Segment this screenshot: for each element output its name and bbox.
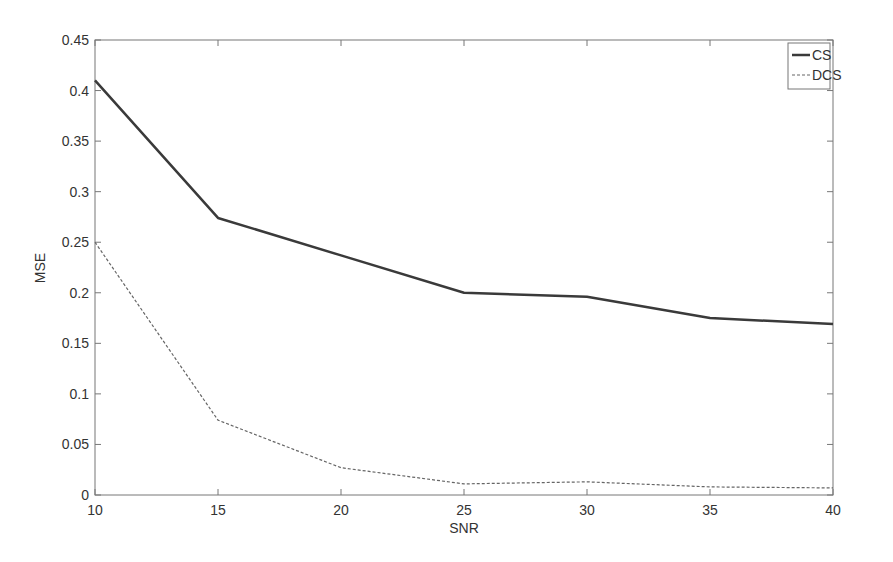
x-tick-label: 30 (579, 502, 595, 518)
series-line-dcs (95, 242, 833, 488)
y-tick-label: 0.4 (70, 83, 90, 99)
x-tick-label: 25 (456, 502, 472, 518)
y-tick-label: 0.3 (70, 184, 90, 200)
x-tick-label: 15 (210, 502, 226, 518)
plot-frame (95, 40, 833, 495)
x-tick-label: 35 (702, 502, 718, 518)
y-axis-ticks: 00.050.10.150.20.250.30.350.40.45 (62, 32, 833, 503)
y-tick-label: 0.2 (70, 285, 90, 301)
x-axis-ticks: 10152025303540 (87, 40, 841, 518)
x-tick-label: 20 (333, 502, 349, 518)
x-axis-label: SNR (449, 520, 479, 536)
legend: CSDCS (788, 43, 842, 89)
line-chart: 00.050.10.150.20.250.30.350.40.45 101520… (0, 0, 893, 562)
series-layer (95, 80, 833, 487)
y-tick-label: 0 (81, 487, 89, 503)
y-tick-label: 0.25 (62, 234, 89, 250)
y-tick-label: 0.15 (62, 335, 89, 351)
legend-label-cs: CS (812, 47, 831, 63)
y-axis-label: MSE (32, 253, 48, 283)
series-line-cs (95, 80, 833, 324)
y-tick-label: 0.45 (62, 32, 89, 48)
legend-label-dcs: DCS (812, 67, 842, 83)
x-tick-label: 10 (87, 502, 103, 518)
x-tick-label: 40 (825, 502, 841, 518)
y-tick-label: 0.35 (62, 133, 89, 149)
y-tick-label: 0.1 (70, 386, 90, 402)
y-tick-label: 0.05 (62, 436, 89, 452)
